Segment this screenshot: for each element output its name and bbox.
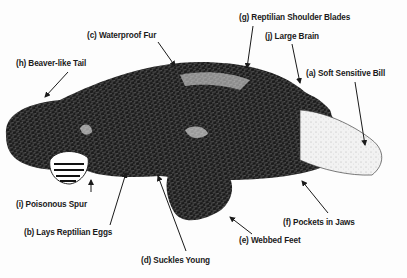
platypus-diagram: (g) Reptilian Shoulder Blades (c) Waterp… [0,0,407,278]
hind-foot [50,152,89,185]
label-waterproof-fur: (c) Waterproof Fur [87,31,156,40]
label-shoulder-blades: (g) Reptilian Shoulder Blades [239,13,350,22]
label-suckles-young: (d) Suckles Young [141,256,210,265]
label-beaver-tail: (h) Beaver-like Tail [16,59,86,68]
label-pockets-jaws: (f) Pockets in Jaws [283,218,355,227]
label-webbed-feet: (e) Webbed Feet [239,236,301,245]
label-sensitive-bill: (a) Soft Sensitive Bill [306,69,385,78]
label-reptilian-eggs: (b) Lays Reptilian Eggs [24,228,112,237]
label-poisonous-spur: (i) Poisonous Spur [16,200,87,209]
label-large-brain: (j) Large Brain [265,32,319,41]
